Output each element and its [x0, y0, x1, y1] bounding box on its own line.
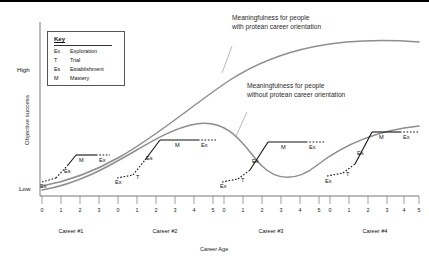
x-tick-marks-career-1	[42, 196, 99, 204]
y-axis-high-label: High	[17, 66, 30, 73]
tick-label-c3-4: 4	[296, 207, 304, 213]
key-term-mastery: Mastery	[70, 75, 89, 81]
step-career2-exploration	[117, 175, 133, 178]
stage-marker-c4-exploration: Ex	[325, 178, 332, 185]
career-group-label-4: Career #4	[352, 228, 398, 235]
career-group-label-2: Career #2	[142, 228, 188, 235]
career-group-label-3: Career #3	[248, 228, 294, 235]
tick-label-c4-3: 3	[383, 207, 391, 213]
stage-marker-c4-trial: T	[346, 171, 349, 178]
step-career4-exploration	[327, 173, 343, 176]
annotation-with-protean-line1: Meaningfulness for people	[232, 14, 321, 23]
career-meaningfulness-chart: Key Ex Exploration T Trial Es Establishm…	[0, 0, 429, 264]
leader-line-lower-annotation	[236, 112, 247, 136]
stage-marker-c2-mastery: M	[175, 142, 180, 149]
stage-marker-c1-mastery: M	[79, 157, 84, 164]
stage-marker-c2-trial: T	[136, 174, 139, 181]
tick-label-c1-3: 3	[95, 207, 103, 213]
key-term-exploration: Exploration	[70, 48, 97, 54]
stage-marker-c1-exploration-end: Ex	[99, 157, 106, 164]
step-career2-trial	[133, 160, 145, 175]
tick-label-c1-2: 2	[76, 207, 84, 213]
tick-label-c2-0: 0	[114, 207, 122, 213]
key-abbr-trial: T	[54, 57, 57, 63]
annotation-without-protean: Meaningfulness for people without protea…	[247, 82, 345, 99]
tick-label-c1-1: 1	[57, 207, 65, 213]
x-tick-marks-career-2	[118, 196, 213, 204]
stage-marker-c3-establishment: Es	[252, 158, 259, 165]
x-axis-title: Career Age	[200, 246, 228, 253]
annotation-without-protean-line2: without protean career orientation	[247, 91, 345, 100]
tick-label-c3-3: 3	[277, 207, 285, 213]
y-axis-title: Objective success	[24, 95, 31, 145]
tick-label-c3-2: 2	[258, 207, 266, 213]
tick-label-c2-2: 2	[152, 207, 160, 213]
tick-label-c2-5: 5	[209, 207, 217, 213]
stage-marker-c2-exploration: Ex	[115, 179, 122, 186]
stage-marker-c1-exploration: Ex	[40, 183, 47, 190]
key-abbr-mastery: M	[54, 75, 59, 81]
tick-label-c4-2: 2	[364, 207, 372, 213]
tick-label-c4-4: 4	[400, 207, 408, 213]
tick-label-c1-0: 0	[38, 207, 46, 213]
stage-marker-c4-mastery: M	[379, 134, 384, 141]
annotation-without-protean-line1: Meaningfulness for people	[247, 82, 345, 91]
key-term-trial: Trial	[70, 57, 80, 63]
tick-label-c4-0: 0	[326, 207, 334, 213]
x-tick-marks-career-4	[330, 196, 419, 204]
step-career3-exploration	[222, 179, 238, 182]
tick-label-c4-1: 1	[345, 207, 353, 213]
x-tick-marks-career-3	[224, 196, 319, 204]
stage-marker-c3-exploration: Ex	[220, 183, 227, 190]
annotation-with-protean-line2: with protean career orientation	[232, 23, 321, 32]
step-career4-establishment	[355, 132, 372, 164]
step-career1-exploration	[42, 178, 56, 182]
stage-marker-c3-exploration-end: Ex	[309, 144, 316, 151]
key-abbr-exploration: Ex	[54, 48, 60, 54]
stage-marker-c2-establishment: Es	[146, 155, 153, 162]
y-axis-low-label: Low	[19, 185, 30, 192]
key-term-establishment: Establishment	[70, 66, 104, 72]
tick-label-c2-4: 4	[190, 207, 198, 213]
stage-marker-c3-mastery: M	[281, 144, 286, 151]
stage-marker-c2-exploration-end: Ex	[201, 142, 208, 149]
stage-marker-c1-establishment: Es	[64, 168, 71, 175]
key-title-rule	[54, 45, 112, 46]
annotation-with-protean: Meaningfulness for people with protean c…	[232, 14, 321, 31]
tick-label-c2-3: 3	[171, 207, 179, 213]
stage-marker-c4-exploration-end: Ex	[403, 134, 410, 141]
stage-marker-c4-establishment: Es	[357, 150, 364, 157]
key-abbr-establishment: Es	[54, 66, 60, 72]
tick-label-c3-5: 5	[315, 207, 323, 213]
stage-marker-c3-trial: T	[241, 177, 244, 184]
tick-label-c3-0: 0	[220, 207, 228, 213]
tick-label-c2-1: 1	[133, 207, 141, 213]
leader-line-upper-annotation	[222, 46, 232, 73]
tick-label-c3-1: 1	[239, 207, 247, 213]
tick-label-c4-5: 5	[415, 207, 423, 213]
step-career1-establishment	[68, 155, 76, 165]
key-title: Key	[54, 36, 65, 42]
career-group-label-1: Career #1	[48, 228, 94, 235]
